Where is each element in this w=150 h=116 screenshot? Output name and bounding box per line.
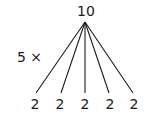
branch-line bbox=[36, 22, 85, 93]
child-number: 2 bbox=[106, 96, 115, 112]
branch-line bbox=[85, 22, 133, 93]
multiplier-label: 5 × bbox=[17, 49, 42, 65]
child-number: 2 bbox=[56, 96, 65, 112]
factor-tree-diagram: 10 5 × 2 2 2 2 2 bbox=[0, 0, 150, 116]
child-number: 2 bbox=[130, 96, 139, 112]
branch-lines bbox=[36, 22, 133, 93]
child-number: 2 bbox=[81, 96, 90, 112]
child-number: 2 bbox=[31, 96, 40, 112]
branch-line bbox=[85, 22, 109, 93]
branch-line bbox=[61, 22, 85, 93]
root-number: 10 bbox=[77, 3, 95, 19]
